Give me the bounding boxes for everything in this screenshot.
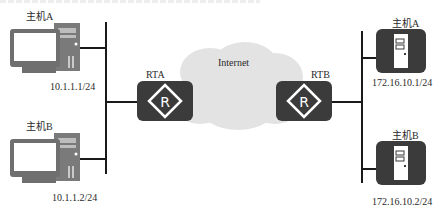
pc-icon [10,130,82,186]
router-icon: R [286,83,322,119]
internet-label: Internet [218,57,249,68]
pc-icon [10,20,82,76]
link-pc-a [80,47,106,49]
left-lan-bus [105,22,107,174]
host-a-right-ip: 172.16.10.1/24 [372,77,432,88]
cropped-text-line [0,0,260,3]
host-pc-a [10,20,82,80]
link-server-a [361,57,377,59]
host-a-left-ip: 10.1.1.1/24 [50,81,95,92]
svg-text:R: R [299,94,309,110]
right-lan-bus [361,31,363,183]
router-icon: R [147,83,183,119]
server-icon [376,141,426,185]
host-b-right-ip: 172.16.10.2/24 [372,196,432,207]
host-server-a [376,29,426,73]
svg-text:R: R [160,94,170,110]
router-rta: R [137,81,193,121]
server-icon [376,29,426,73]
host-server-b [376,141,426,185]
link-pc-b [80,158,106,160]
host-a-right-name: 主机A [392,15,419,30]
rtb-label: RTB [311,69,330,80]
rta-label: RTA [146,69,165,80]
link-rtb [332,101,362,103]
host-b-left-name: 主机B [26,118,53,133]
link-rta [105,101,138,103]
host-b-left-ip: 10.1.1.2/24 [52,192,97,203]
host-pc-b [10,130,82,190]
link-server-b [361,168,377,170]
router-rtb: R [276,81,332,121]
host-a-left-name: 主机A [26,8,53,23]
host-b-right-name: 主机B [392,127,419,142]
